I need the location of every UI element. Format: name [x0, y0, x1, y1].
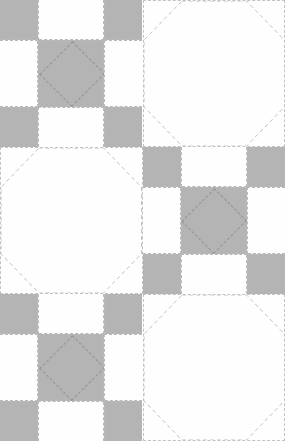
patch-cell-3-1-gray — [0, 401, 38, 441]
center-diamond-quilting — [39, 41, 105, 107]
patch-cell-2-2-gray — [181, 187, 247, 255]
patch-cell-1-2-white — [181, 147, 247, 187]
center-diamond-quilting — [181, 188, 247, 254]
patch-cell-3-1-gray — [143, 254, 181, 294]
patch-cell-1-2-white — [38, 0, 104, 40]
patch-cell-3-3-gray — [247, 254, 285, 294]
block-r2-c1-snowball — [0, 147, 143, 294]
patch-cell-3-2-white — [38, 401, 104, 441]
patch-cell-2-1-white — [0, 334, 38, 402]
block-r3-c2-snowball — [143, 294, 286, 441]
octagon-outline — [1, 148, 142, 293]
patch-cell-2-2-gray — [38, 334, 104, 402]
patch-cell-3-3-gray — [104, 401, 142, 441]
patch-cell-1-1-gray — [0, 294, 38, 334]
quilt-layout-canvas — [0, 0, 285, 441]
patch-cell-1-3-gray — [247, 147, 285, 187]
patch-cell-3-2-white — [38, 107, 104, 147]
patch-cell-2-3-white — [104, 334, 142, 402]
patch-cell-2-3-white — [104, 40, 142, 108]
patch-cell-3-2-white — [181, 254, 247, 294]
patch-cell-1-2-white — [38, 294, 104, 334]
patch-cell-2-1-white — [0, 40, 38, 108]
patch-cell-1-1-gray — [143, 147, 181, 187]
block-r2-c2-ninepatch — [143, 147, 286, 294]
patch-cell-1-3-gray — [104, 294, 142, 334]
block-r1-c1-ninepatch — [0, 0, 143, 147]
octagon-outline — [144, 1, 285, 146]
patch-cell-3-1-gray — [0, 107, 38, 147]
patch-cell-1-1-gray — [0, 0, 38, 40]
center-diamond-quilting — [39, 335, 105, 401]
octagon-outline — [144, 295, 285, 440]
patch-cell-2-2-gray — [38, 40, 104, 108]
block-r1-c2-snowball — [143, 0, 286, 147]
patch-cell-2-1-white — [143, 187, 181, 255]
patch-cell-2-3-white — [247, 187, 285, 255]
patch-cell-1-3-gray — [104, 0, 142, 40]
patch-cell-3-3-gray — [104, 107, 142, 147]
block-r3-c1-ninepatch — [0, 294, 143, 441]
